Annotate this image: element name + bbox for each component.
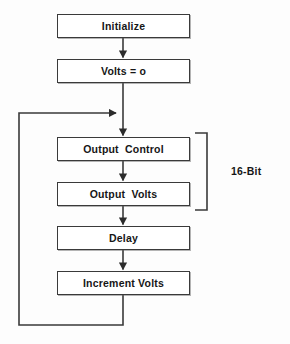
process-label-increment-volts: Increment Volts (83, 278, 164, 289)
process-box-output-volts[interactable]: Output Volts (57, 182, 190, 206)
process-box-initialize[interactable]: Initialize (57, 14, 190, 38)
process-box-output-control[interactable]: Output Control (57, 137, 190, 161)
flowchart-diagram: Initialize Volts = o Output Control Outp… (0, 0, 290, 344)
process-label-output-control: Output Control (83, 144, 164, 155)
process-box-delay[interactable]: Delay (57, 226, 190, 250)
process-box-volts-zero[interactable]: Volts = o (57, 59, 190, 83)
process-label-output-volts: Output Volts (90, 189, 158, 200)
process-label-delay: Delay (109, 233, 138, 244)
bracket-16-bit-shape (195, 133, 207, 210)
process-box-increment-volts[interactable]: Increment Volts (57, 271, 190, 295)
bracket-label-16-bit: 16-Bit (231, 166, 261, 177)
process-label-volts-zero: Volts = o (101, 66, 146, 77)
process-label-initialize: Initialize (102, 21, 145, 32)
